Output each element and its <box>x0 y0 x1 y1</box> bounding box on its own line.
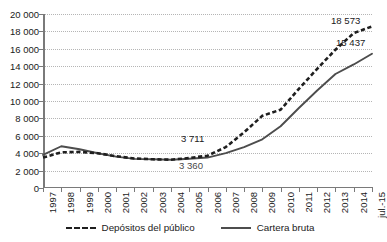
x-axis-tick <box>354 187 355 192</box>
x-axis-label: 2000 <box>102 192 113 213</box>
x-axis-tick <box>98 187 99 192</box>
legend-swatch-solid-icon <box>221 227 251 229</box>
annotation-3711: 3 711 <box>181 133 204 144</box>
x-axis-label: 2003 <box>157 192 168 213</box>
legend: Depósitos del público Cartera bruta <box>0 222 380 233</box>
x-axis-label: 2006 <box>212 192 223 213</box>
x-axis-label: 2013 <box>339 192 350 213</box>
x-axis-tick <box>208 187 209 192</box>
x-axis-tick <box>134 187 135 192</box>
x-axis-label: 2005 <box>193 192 204 213</box>
series-layer <box>43 14 372 188</box>
y-axis-label: 16 000 <box>0 43 39 54</box>
x-axis-label: 1998 <box>65 192 76 213</box>
y-axis-label: 6 000 <box>0 130 39 141</box>
y-axis-label: 0 <box>0 183 39 194</box>
x-axis-tick <box>226 187 227 192</box>
y-axis-label: 12 000 <box>0 78 39 89</box>
x-axis-tick <box>61 187 62 192</box>
y-axis-label: 20 000 <box>0 9 39 20</box>
x-axis-tick <box>335 187 336 192</box>
series-line-cartera-bruta <box>43 54 372 160</box>
x-axis-tick <box>43 187 44 192</box>
y-axis-label: 2 000 <box>0 165 39 176</box>
x-axis-tick <box>281 187 282 192</box>
y-axis-label: 8 000 <box>0 113 39 124</box>
x-axis-tick <box>116 187 117 192</box>
annotation-3360: 3 360 <box>179 160 203 171</box>
x-axis-label: 2004 <box>175 192 186 213</box>
legend-label-depositos-del-publico: Depósitos del público <box>102 222 195 233</box>
x-axis-label: 2014 <box>358 192 369 213</box>
x-axis-tick <box>299 187 300 192</box>
legend-swatch-dashed-icon <box>66 227 96 229</box>
x-axis-label: jul.-15 <box>376 192 387 218</box>
x-axis-label: 2011 <box>303 192 314 212</box>
x-axis-tick <box>262 187 263 192</box>
x-axis-tick <box>317 187 318 192</box>
x-axis-tick <box>372 187 373 192</box>
x-axis-tick <box>189 187 190 192</box>
x-axis-tick <box>244 187 245 192</box>
x-axis-label: 2010 <box>285 192 296 213</box>
x-axis-label: 2008 <box>248 192 259 213</box>
x-axis-tick <box>153 187 154 192</box>
legend-item-cartera-bruta: Cartera bruta <box>221 222 315 233</box>
annotation-15437: 15 437 <box>336 37 365 48</box>
legend-item-depositos-del-publico: Depósitos del público <box>66 222 195 233</box>
legend-label-cartera-bruta: Cartera bruta <box>257 222 315 233</box>
x-axis-label: 1999 <box>84 192 95 213</box>
y-axis-label: 18 000 <box>0 26 39 37</box>
x-axis-label: 2002 <box>138 192 149 213</box>
y-axis-label: 14 000 <box>0 61 39 72</box>
series-line-depositos-del-publico <box>43 26 372 159</box>
x-axis-tick <box>171 187 172 192</box>
x-axis-tick <box>80 187 81 192</box>
x-axis-label: 1997 <box>47 192 58 213</box>
plot-area: 20 00018 00016 00014 00012 00010 0008 00… <box>43 14 372 188</box>
x-axis-label: 2007 <box>230 192 241 213</box>
annotation-18573: 18 573 <box>331 15 360 26</box>
y-axis-label: 10 000 <box>0 96 39 107</box>
x-axis-label: 2009 <box>266 192 277 213</box>
x-axis-label: 2001 <box>120 192 131 213</box>
x-axis-label: 2012 <box>321 192 332 213</box>
y-axis-label: 4 000 <box>0 148 39 159</box>
